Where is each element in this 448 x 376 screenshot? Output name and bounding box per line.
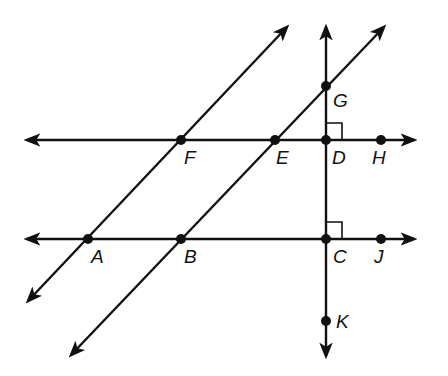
label-B: B: [184, 246, 197, 267]
point-K: [321, 316, 331, 326]
label-E: E: [276, 147, 289, 168]
point-F: [176, 135, 186, 145]
geometry-diagram: A B C D E F G H J K: [0, 0, 448, 376]
point-D: [321, 135, 331, 145]
label-F: F: [184, 147, 197, 168]
point-C: [321, 234, 331, 244]
label-H: H: [372, 147, 386, 168]
point-J: [376, 234, 386, 244]
point-B: [176, 234, 186, 244]
point-H: [376, 135, 386, 145]
point-A: [83, 234, 93, 244]
label-K: K: [336, 311, 350, 332]
line-BG: [71, 27, 384, 355]
label-D: D: [332, 147, 346, 168]
line-AF: [28, 27, 287, 301]
label-A: A: [90, 246, 104, 267]
point-E: [270, 135, 280, 145]
label-J: J: [373, 246, 384, 267]
point-G: [321, 81, 331, 91]
label-G: G: [333, 90, 348, 111]
label-C: C: [333, 246, 347, 267]
